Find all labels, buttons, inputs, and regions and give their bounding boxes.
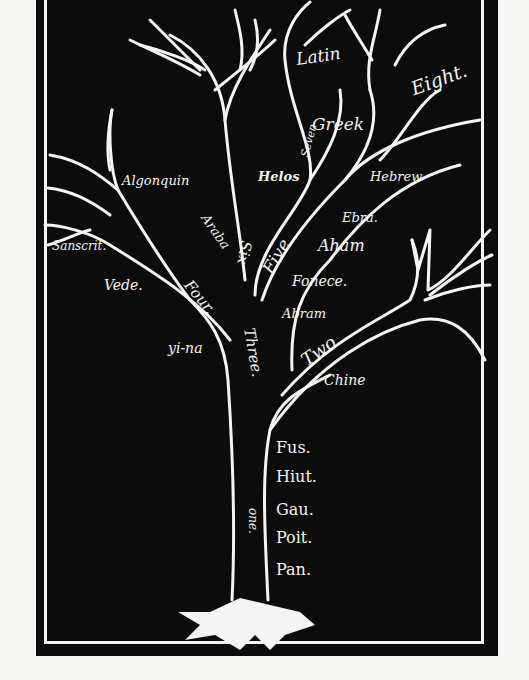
language-algonquin: Algonquin (122, 174, 189, 187)
branch-label-six: Six (234, 240, 253, 266)
language-hebrew: Hebrew (370, 170, 422, 183)
language-yi-na: yi-na (168, 341, 202, 355)
language-chine: Chine (324, 373, 366, 387)
language-hiut: Hiut. (276, 469, 317, 485)
language-abram: Abram (282, 307, 326, 320)
language-helos: Helos (258, 170, 299, 183)
language-fonece: Fonece. (292, 274, 347, 288)
language-ebra: Ebra. (342, 211, 378, 224)
language-aham: Aham (318, 238, 365, 254)
language-fus: Fus. (276, 440, 311, 456)
language-poit: Poit. (276, 530, 312, 546)
language-vede: Vede. (104, 278, 143, 292)
branch-label-one: one. (247, 508, 259, 534)
language-greek: Greek (312, 116, 364, 133)
language-pan: Pan. (276, 562, 311, 578)
language-sanscrit: Sanscrit. (52, 240, 106, 252)
tree-drawing (0, 0, 529, 680)
language-gau: Gau. (276, 502, 314, 518)
